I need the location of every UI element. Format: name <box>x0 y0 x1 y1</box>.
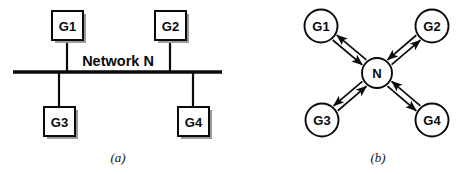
bus-node-g1-label: G1 <box>59 19 76 34</box>
figure-network-topologies: Network N G1 G2 G3 G4 <box>0 0 462 174</box>
star-node-g4[interactable]: G4 <box>416 104 449 137</box>
bus-node-g3-label: G3 <box>51 115 68 130</box>
panel-a-group: Network N G1 G2 G3 G4 <box>13 11 222 165</box>
star-hub-n[interactable]: N <box>362 58 392 88</box>
bus-node-g2[interactable]: G2 <box>155 11 189 43</box>
panel-b-caption: (b) <box>370 150 385 165</box>
star-node-g4-label: G4 <box>423 113 441 128</box>
star-node-g2-label: G2 <box>423 19 440 34</box>
bus-node-g2-label: G2 <box>162 19 179 34</box>
panel-b-group: G1 G2 G3 G4 N (b) <box>305 10 449 166</box>
panel-a-caption: (a) <box>110 150 125 165</box>
network-bus-label: Network N <box>82 53 154 69</box>
bus-node-g4[interactable]: G4 <box>178 107 212 139</box>
bus-node-g3[interactable]: G3 <box>44 107 78 139</box>
star-node-g3[interactable]: G3 <box>306 104 339 137</box>
bus-node-g4-label: G4 <box>185 115 203 130</box>
topology-diagram-canvas: Network N G1 G2 G3 G4 <box>0 0 462 174</box>
star-node-g2[interactable]: G2 <box>416 10 449 43</box>
star-node-g3-label: G3 <box>313 113 330 128</box>
star-node-g1-label: G1 <box>312 19 329 34</box>
star-hub-n-label: N <box>372 66 381 81</box>
bus-node-g1[interactable]: G1 <box>52 11 86 43</box>
star-node-g1[interactable]: G1 <box>305 10 338 43</box>
